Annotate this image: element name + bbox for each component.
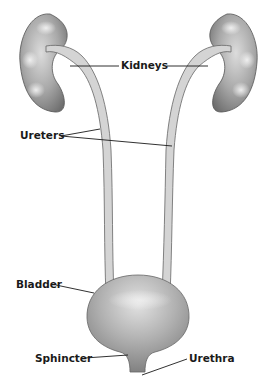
label-kidneys: Kidneys (121, 60, 168, 71)
right-kidney (210, 14, 257, 112)
label-sphincter: Sphincter (35, 353, 92, 364)
label-bladder: Bladder (16, 279, 62, 290)
urinary-system-diagram (0, 0, 277, 385)
left-kidney (20, 14, 67, 112)
label-urethra: Urethra (189, 353, 235, 364)
ureters-leader-right (61, 136, 172, 146)
urethra-leader (142, 359, 187, 375)
ureters-leader-left (61, 129, 100, 136)
bladder (87, 275, 189, 372)
label-ureters: Ureters (20, 130, 64, 141)
